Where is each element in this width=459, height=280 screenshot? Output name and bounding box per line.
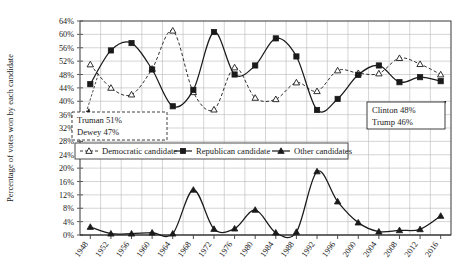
y-axis-tick-label: 28% [59,137,74,146]
other-point-marker [293,229,299,235]
rep-point-marker [129,40,134,45]
legend-item-label: Democratic candidate [102,146,177,156]
legend-item-label: Republican candidate [196,146,270,156]
other-point-marker [87,224,93,230]
rep-point-marker [88,82,93,87]
y-axis-tick-label: 64% [59,17,74,26]
y-axis-tick-label: 8% [63,204,74,213]
rep-point-marker [356,72,361,77]
y-axis-tick-label: 16% [59,178,74,187]
rep-point-marker [108,48,113,53]
y-axis-tick-label: 4% [63,218,74,227]
x-axis-tick-label: 1980 [238,240,255,259]
x-axis-tick-label: 1956 [114,240,131,259]
y-axis-tick-label: 40% [59,97,74,106]
dem-point-marker [273,96,279,102]
rep-point-marker [273,36,278,41]
dem-point-marker [417,61,423,67]
other-point-marker [437,213,443,219]
rep-point-marker [397,80,402,85]
dem-point-marker [87,61,93,67]
rep-point-marker [170,104,175,109]
x-axis-tick-label: 1984 [258,239,275,259]
y-axis-tick-label: 0% [63,231,74,240]
x-axis-tick-label: 1972 [197,240,214,259]
dem-point-marker [376,70,382,76]
dem-point-marker [211,106,217,112]
y-axis-tick-label: 44% [59,84,74,93]
x-axis-tick-label: 2012 [403,240,420,259]
annotation-clinton-trump: Clinton 48%Trump 46% [367,101,446,129]
x-axis-tick-label: 2008 [382,240,399,259]
x-axis-tick-label: 1996 [320,240,337,259]
x-axis-tick-label: 1988 [279,240,296,259]
x-axis-tick-label: 1976 [217,240,234,259]
x-axis-tick-label: 1948 [73,240,90,259]
rep-point-marker [191,87,196,92]
annotation-leader-line [86,72,99,113]
x-axis-tick-label: 1964 [155,239,172,259]
other-point-marker [252,207,258,213]
dem-point-marker [314,88,320,94]
y-axis-tick-label: 12% [59,191,74,200]
dem-point-marker [437,71,443,77]
rep-point-marker [335,96,340,101]
rep-point-marker [232,72,237,77]
y-axis-tick-label: 60% [59,30,74,39]
y-axis-tick-label: 20% [59,164,74,173]
legend-sample-marker [180,148,185,153]
rep-point-marker [211,29,216,34]
y-axis-tick-label: 48% [59,71,74,80]
chart-canvas: 0%4%8%12%16%20%24%28%32%36%40%44%48%52%5… [0,0,459,280]
x-axis-tick-label: 1960 [135,240,152,259]
x-axis-tick-label: 2016 [423,240,440,259]
annotation-line: Clinton 48% [372,105,416,115]
annotation-line: Truman 51% [77,115,122,125]
x-axis-tick-label: 1952 [94,240,111,259]
x-axis: 1948195219561960196419681972197619801984… [73,235,441,259]
rep-point-marker [438,79,443,84]
rep-point-marker [376,63,381,68]
rep-point-marker [253,63,258,68]
dem-point-marker [231,64,237,70]
legend-item-label: Other candidates [294,146,353,156]
annotation-truman-dewey: Truman 51%Dewey 47% [72,72,167,140]
x-axis-tick-label: 1992 [300,240,317,259]
y-axis-tick-label: 24% [59,151,74,160]
rep-point-marker [314,107,319,112]
x-axis-tick-label: 2004 [362,239,379,259]
dem-point-marker [128,91,134,97]
x-axis-tick-label: 2000 [341,240,358,259]
rep-point-marker [294,54,299,59]
other-point-marker [190,187,196,193]
x-axis-tick-label: 1968 [176,240,193,259]
y-axis-tick-label: 52% [59,57,74,66]
chart-legend: Democratic candidateRepublican candidate… [75,143,353,159]
y-axis-title: Percentage of votes won by each candidat… [5,54,15,202]
rep-point-marker [417,75,422,80]
annotation-line: Trump 46% [372,117,413,127]
rep-point-marker [150,67,155,72]
y-axis-tick-label: 56% [59,44,74,53]
election-results-chart: 0%4%8%12%16%20%24%28%32%36%40%44%48%52%5… [0,0,459,280]
annotation-line: Dewey 47% [77,127,119,137]
